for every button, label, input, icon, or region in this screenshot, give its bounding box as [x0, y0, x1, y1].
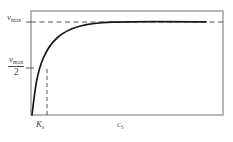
vmax-subscript: max	[11, 17, 21, 23]
fraction-numerator: vmax	[8, 55, 24, 65]
y-axis-vmax-half-label: vmax 2	[8, 55, 24, 78]
vmax-half-fraction: vmax 2	[8, 55, 24, 78]
y-axis-vmax-label: vmax	[7, 13, 21, 23]
saturation-kinetics-figure: vmax vmax 2 Ks cS	[0, 0, 233, 142]
cs-subscript: S	[121, 124, 124, 130]
plot-frame	[31, 11, 223, 115]
x-axis-ks-label: Ks	[36, 120, 44, 130]
x-axis-cs-label: cS	[117, 121, 124, 130]
vmax-half-subscript: max	[13, 59, 23, 65]
saturation-curve	[32, 22, 206, 115]
ks-subscript: s	[42, 124, 44, 130]
fraction-denominator: 2	[8, 67, 24, 78]
